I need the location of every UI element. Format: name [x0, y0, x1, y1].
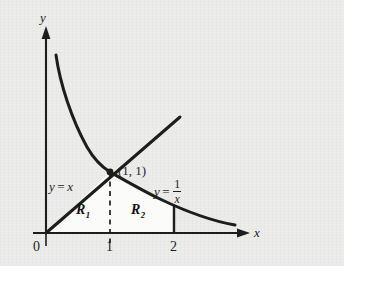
- curve-label-y-equals-x: y=x: [49, 180, 73, 193]
- y-axis-label: y: [40, 11, 46, 24]
- region-label-r2-subscript: 2: [141, 210, 145, 220]
- region-label-r1-base: R: [76, 202, 85, 217]
- curve-label-one-over-x-lhs: y: [154, 184, 160, 199]
- fraction-one-over-x: 1 x: [173, 178, 181, 204]
- origin-tick-label: 0: [33, 240, 40, 254]
- intersection-point-marker: [107, 169, 114, 176]
- curve-label-y-equals-x-rhs: x: [67, 179, 73, 194]
- curve-label-y-equals-x-eq: =: [57, 179, 64, 194]
- region-label-r1: R1: [76, 203, 90, 219]
- curve-label-one-over-x-eq: =: [162, 184, 169, 199]
- x-tick-label-2: 2: [170, 240, 177, 254]
- point-label-1-1: (1, 1): [118, 164, 146, 177]
- region-label-r2: R2: [131, 203, 145, 219]
- region-label-r2-base: R: [131, 202, 140, 217]
- plot-graphics: [0, 0, 370, 282]
- fraction-numerator: 1: [173, 178, 181, 190]
- figure-container: y x 0 1 2 y=x y= 1 x (1, 1) R1 R2: [0, 0, 370, 282]
- curve-label-y-equals-one-over-x: y= 1 x: [154, 180, 182, 206]
- region-label-r1-subscript: 1: [86, 210, 90, 220]
- fraction-denominator: x: [173, 193, 181, 205]
- y-axis: [42, 26, 51, 233]
- x-axis-label: x: [254, 226, 260, 239]
- x-tick-label-1: 1: [106, 240, 113, 254]
- curve-label-y-equals-x-lhs: y: [49, 179, 55, 194]
